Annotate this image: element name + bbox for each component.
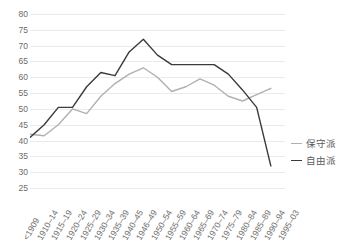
y-axis-tick-65: 65 (2, 57, 28, 66)
y-axis-tick-30: 30 (2, 168, 28, 177)
legend-item-label: 保守派 (306, 139, 336, 149)
y-axis-tick-60: 60 (2, 73, 28, 82)
y-axis-tick-45: 45 (2, 120, 28, 129)
legend-item-保守派[interactable]: 保守派 (291, 139, 336, 149)
y-axis-tick-55: 55 (2, 89, 28, 98)
legend: 保守派自由派 (291, 139, 336, 165)
legend-swatch-icon (291, 143, 302, 144)
legend-item-自由派[interactable]: 自由派 (291, 156, 336, 166)
y-axis-tick-35: 35 (2, 152, 28, 161)
y-axis-tick-40: 40 (2, 136, 28, 145)
x-axis: <19091910–141915–191920–241925–291930–34… (30, 188, 285, 241)
y-axis-tick-50: 50 (2, 105, 28, 114)
y-axis-tick-80: 80 (2, 10, 28, 19)
y-axis-tick-70: 70 (2, 41, 28, 50)
plot-area (30, 14, 285, 188)
line-chart: 807570656055504540353025 <19091910–14191… (0, 0, 352, 241)
y-axis-tick-75: 75 (2, 26, 28, 35)
y-axis-tick-25: 25 (2, 184, 28, 193)
series-layer (30, 14, 285, 188)
series-line-自由派 (30, 39, 271, 166)
legend-item-label: 自由派 (306, 156, 336, 166)
legend-swatch-icon (291, 160, 302, 161)
series-line-保守派 (30, 68, 271, 136)
y-axis: 807570656055504540353025 (0, 0, 28, 241)
